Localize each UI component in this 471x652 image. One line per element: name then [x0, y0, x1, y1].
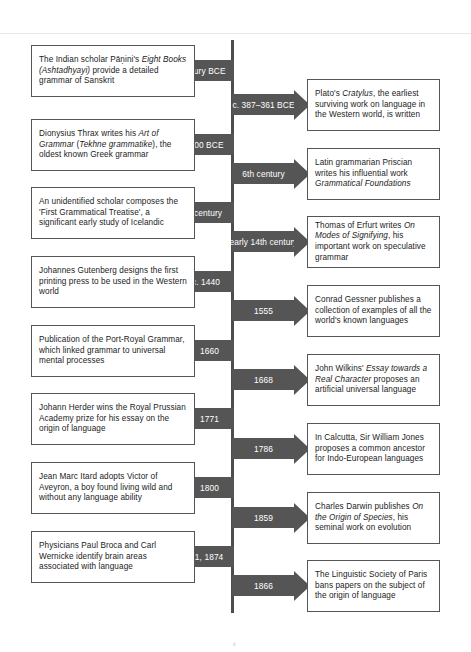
- arrow-shaft-right-4: 1555: [232, 300, 295, 321]
- arrow-shaft-right-5: 1668: [232, 369, 295, 390]
- arrow-label-right-6: 1786: [254, 444, 273, 454]
- event-text-left-5: Publication of the Port-Royal Grammar, w…: [32, 335, 194, 367]
- event-text-left-2: Dionysius Thrax writes his Art of Gramma…: [32, 129, 194, 161]
- arrow-label-right-7: 1859: [254, 513, 273, 523]
- arrow-label-right-3: early 14th century: [229, 237, 297, 247]
- event-box-left-4: Johannes Gutenberg designs the first pri…: [31, 256, 195, 308]
- timeline-diagram: The Indian scholar Pāṇini's Eight Books …: [0, 0, 471, 652]
- event-text-right-4: Conrad Gessner publishes a collection of…: [308, 295, 439, 327]
- arrow-label-left-6: 1771: [200, 414, 219, 424]
- event-text-right-7: Charles Darwin publishes On the Origin o…: [308, 502, 439, 534]
- arrow-right-7: 1859: [232, 507, 310, 528]
- event-box-right-3: Thomas of Erfurt writes On Modes of Sign…: [307, 216, 440, 268]
- arrow-label-right-8: 1866: [254, 581, 273, 591]
- event-box-right-6: In Calcutta, Sir William Jones proposes …: [307, 423, 440, 475]
- arrow-label-left-5: 1660: [200, 346, 219, 356]
- event-box-left-8: Physicians Paul Broca and Carl Wernicke …: [31, 531, 195, 583]
- event-box-left-3: An unidentified scholar composes the 'Fi…: [31, 187, 195, 239]
- event-box-left-1: The Indian scholar Pāṇini's Eight Books …: [31, 45, 195, 97]
- event-box-left-6: Johann Herder wins the Royal Prussian Ac…: [31, 393, 195, 445]
- arrow-label-left-7: 1800: [200, 483, 219, 493]
- arrow-shaft-right-6: 1786: [232, 438, 295, 459]
- arrow-shaft-right-3: early 14th century: [232, 231, 295, 252]
- event-text-right-5: John Wilkins' Essay towards a Real Chara…: [308, 364, 439, 396]
- page-number: ii: [233, 641, 236, 647]
- arrow-right-3: early 14th century: [232, 231, 310, 252]
- arrow-right-6: 1786: [232, 438, 310, 459]
- event-text-left-8: Physicians Paul Broca and Carl Wernicke …: [32, 541, 194, 573]
- event-text-right-1: Plato's Cratylus, the earliest surviving…: [308, 89, 439, 121]
- arrow-right-2: 6th century: [232, 163, 310, 184]
- arrow-label-left-4: c. 1440: [192, 277, 220, 287]
- event-box-right-7: Charles Darwin publishes On the Origin o…: [307, 492, 440, 544]
- event-box-right-8: The Linguistic Society of Paris bans pap…: [307, 560, 440, 612]
- event-box-right-1: Plato's Cratylus, the earliest surviving…: [307, 79, 440, 131]
- event-text-right-3: Thomas of Erfurt writes On Modes of Sign…: [308, 221, 439, 263]
- arrow-label-right-1: c. 387–361 BCE: [232, 100, 294, 110]
- event-box-right-2: Latin grammarian Priscian writes his inf…: [307, 148, 440, 200]
- arrow-shaft-right-2: 6th century: [232, 163, 295, 184]
- event-text-right-2: Latin grammarian Priscian writes his inf…: [308, 158, 439, 190]
- event-box-left-2: Dionysius Thrax writes his Art of Gramma…: [31, 119, 195, 171]
- event-text-left-7: Jean Marc Itard adopts Victor of Aveyron…: [32, 472, 194, 504]
- arrow-shaft-right-8: 1866: [232, 575, 295, 596]
- event-text-left-4: Johannes Gutenberg designs the first pri…: [32, 266, 194, 298]
- event-box-left-7: Jean Marc Itard adopts Victor of Aveyron…: [31, 462, 195, 514]
- arrow-right-1: c. 387–361 BCE: [232, 94, 310, 115]
- arrow-label-right-2: 6th century: [242, 169, 284, 179]
- arrow-shaft-right-1: c. 387–361 BCE: [232, 94, 295, 115]
- event-text-left-3: An unidentified scholar composes the 'Fi…: [32, 197, 194, 229]
- event-box-right-4: Conrad Gessner publishes a collection of…: [307, 285, 440, 337]
- arrow-right-8: 1866: [232, 575, 310, 596]
- arrow-label-right-4: 1555: [254, 306, 273, 316]
- page-top-rule: [0, 33, 471, 34]
- arrow-right-4: 1555: [232, 300, 310, 321]
- event-box-left-5: Publication of the Port-Royal Grammar, w…: [31, 325, 195, 377]
- arrow-label-right-5: 1668: [254, 375, 273, 385]
- arrow-shaft-right-7: 1859: [232, 507, 295, 528]
- arrow-right-5: 1668: [232, 369, 310, 390]
- event-text-left-6: Johann Herder wins the Royal Prussian Ac…: [32, 403, 194, 435]
- event-text-left-1: The Indian scholar Pāṇini's Eight Books …: [32, 55, 194, 87]
- event-box-right-5: John Wilkins' Essay towards a Real Chara…: [307, 354, 440, 406]
- event-text-right-8: The Linguistic Society of Paris bans pap…: [308, 570, 439, 602]
- event-text-right-6: In Calcutta, Sir William Jones proposes …: [308, 433, 439, 465]
